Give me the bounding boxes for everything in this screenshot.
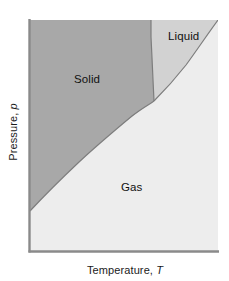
y-axis-variable: p <box>7 103 19 109</box>
phase-diagram-plot <box>0 0 229 281</box>
region-label-solid: Solid <box>74 73 100 85</box>
y-axis-title-text: Pressure, <box>7 110 19 161</box>
y-axis-title: Pressure, p <box>7 84 19 180</box>
region-label-liquid: Liquid <box>168 30 199 42</box>
x-axis-title-text: Temperature, <box>87 264 156 276</box>
x-axis-variable: T <box>156 264 163 276</box>
region-label-gas: Gas <box>121 181 142 193</box>
x-axis-title: Temperature, T <box>30 264 220 276</box>
phase-diagram-figure: Solid Liquid Gas Pressure, p Temperature… <box>0 0 229 281</box>
